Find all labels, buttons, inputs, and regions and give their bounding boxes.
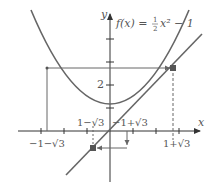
label-one-plus-sqrt3: 1+√3 xyxy=(163,138,190,149)
label-neg-one-plus-sqrt3: −1+√3 xyxy=(112,117,148,128)
start-point-left xyxy=(46,67,49,70)
x-axis-label: x xyxy=(198,116,205,129)
svg-text:2: 2 xyxy=(153,25,157,33)
fixed-point-upper xyxy=(170,65,176,71)
fixed-point-lower xyxy=(90,145,96,151)
function-label: f(x) = 1 2 x² − 1 xyxy=(115,16,194,33)
label-one-minus-sqrt3: 1−√3 xyxy=(77,117,104,128)
svg-text:1: 1 xyxy=(153,16,157,24)
label-neg-one-minus-sqrt3: −1−√3 xyxy=(29,138,65,149)
identity-line xyxy=(66,34,202,175)
svg-text:x² − 1: x² − 1 xyxy=(160,17,194,30)
y-tick-label-2: 2 xyxy=(97,78,104,91)
svg-text:f(x) =: f(x) = xyxy=(115,17,148,30)
y-axis-label: y xyxy=(100,8,108,21)
cobweb-diagram: y x 2 f(x) = 1 2 x² − 1 −1−√3 1−√3 −1+√3… xyxy=(0,0,215,182)
